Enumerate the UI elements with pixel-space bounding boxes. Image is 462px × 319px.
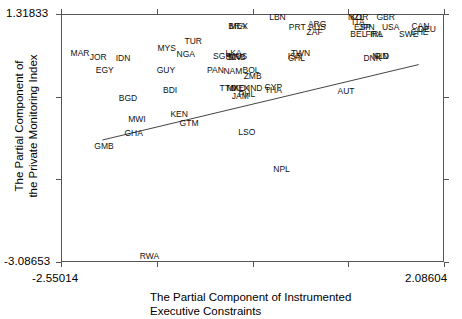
y-tick-left-1 — [56, 97, 61, 98]
y-tick-left-0 — [56, 14, 61, 15]
y-tick-left-2 — [56, 179, 61, 180]
point-label-gtm: GTM — [180, 118, 199, 127]
x-tick-bottom-2 — [253, 262, 254, 267]
point-label-lso: LSO — [238, 128, 255, 137]
x-tick-bottom-3 — [348, 262, 349, 267]
x-tick-bottom-0 — [61, 262, 62, 267]
x-tick-top-2 — [253, 9, 254, 14]
point-label-che: CHE — [411, 28, 429, 37]
point-label-bdi: BDI — [163, 85, 177, 94]
point-label-jor: JOR — [90, 53, 107, 62]
point-label-aut: AUT — [338, 87, 355, 96]
point-label-guy: GUY — [157, 65, 175, 74]
x-axis-min-label: -2.55014 — [32, 272, 78, 284]
point-label-nam: NAM — [223, 66, 242, 75]
point-label-nga: NGA — [177, 50, 195, 59]
point-label-prt: PRT — [289, 22, 306, 31]
y-tick-right-0 — [444, 14, 449, 15]
point-label-lbn: LBN — [269, 12, 286, 21]
point-label-zaf: ZAF — [307, 28, 323, 37]
point-label-npl: NPL — [273, 165, 290, 174]
point-label-mwi: MWI — [128, 115, 145, 124]
point-label-phl: PHL — [239, 90, 256, 99]
point-label-bgd: BGD — [119, 93, 137, 102]
point-label-idn: IDN — [116, 54, 131, 63]
point-label-gha: GHA — [124, 129, 142, 138]
point-label-usa: USA — [382, 23, 399, 32]
y-axis-min-label: -3.08653 — [4, 255, 50, 267]
point-label-gmb: GMB — [94, 142, 113, 151]
x-tick-bottom-1 — [157, 262, 158, 267]
point-label-egy: EGY — [96, 65, 114, 74]
y-tick-right-2 — [444, 179, 449, 180]
y-tick-left-3 — [56, 262, 61, 263]
point-label-twn: TWN — [291, 49, 310, 58]
point-label-fin: FIN — [375, 52, 389, 61]
point-label-mex: MEX — [229, 22, 247, 31]
x-tick-top-0 — [61, 9, 62, 14]
x-axis-max-label: 2.08604 — [405, 272, 447, 284]
point-label-zmb: ZMB — [244, 72, 262, 81]
point-label-mys: MYS — [158, 43, 176, 52]
point-label-tur: TUR — [184, 37, 201, 46]
y-tick-right-1 — [444, 97, 449, 98]
y-tick-right-3 — [444, 262, 449, 263]
point-label-mar: MAR — [71, 48, 90, 57]
point-label-tha: THA — [265, 86, 282, 95]
point-label-mus: MUS — [228, 51, 247, 60]
point-label-pan: PAN — [207, 65, 224, 74]
point-label-bel: BEL — [350, 29, 366, 38]
chart-root: 1.31833 -3.08653 -2.55014 2.08604 The Pa… — [0, 0, 462, 319]
point-label-gbr: GBR — [376, 13, 394, 22]
x-tick-top-1 — [157, 9, 158, 14]
y-axis-title: The Partial Component of the Private Mon… — [12, 12, 40, 240]
point-label-rwa: RWA — [140, 252, 159, 261]
x-axis-title: The Partial Component of Instrumented Ex… — [150, 290, 351, 318]
point-label-irl: IRL — [370, 29, 383, 38]
